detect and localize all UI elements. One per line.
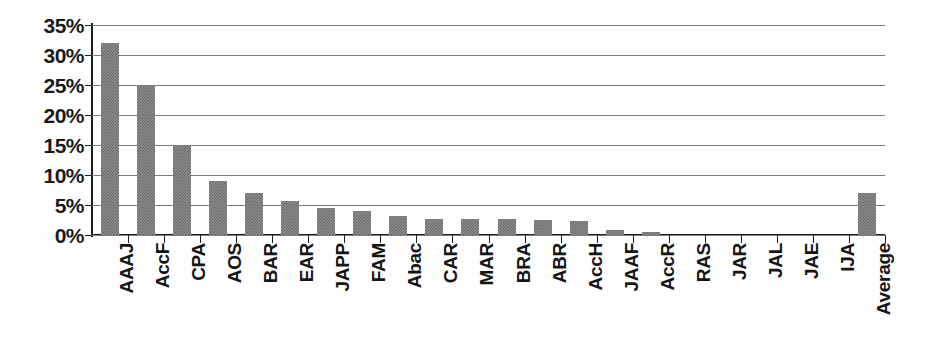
y-axis-tick-label: 10% [43,165,84,186]
x-axis-category-label: AccF [153,243,172,288]
bar [317,208,335,235]
x-axis-category-label: JAE [802,243,821,279]
x-axis-tick [885,235,886,243]
y-axis-tick [85,175,92,176]
x-axis-category-label: MAR [477,243,496,285]
bar [425,219,443,235]
bar [570,221,588,235]
bar-series [92,25,885,235]
x-axis-category-label: Abac [405,243,424,288]
bar [245,193,263,235]
bar [137,85,155,235]
x-axis-category-label: CPA [189,243,208,281]
x-axis-category-label: IJA [838,243,857,272]
x-axis-category-label: BRA [514,243,533,283]
y-axis-tick [85,205,92,206]
y-axis-tick [85,25,92,26]
x-axis-category-labels: AAAJAccFCPAAOSBAREARJAPPFAMAbacCARMARBRA… [92,237,885,345]
x-axis-category-label: BAR [261,243,280,283]
x-axis-category-label: AOS [225,243,244,283]
x-axis-category-label: CAR [441,243,460,283]
y-axis-tick [85,115,92,116]
y-axis-tick-label: 25% [43,75,84,96]
bar-chart: 0%5%10%15%20%25%30%35% AAAJAccFCPAAOSBAR… [0,0,926,345]
bar [498,219,516,235]
x-axis-category-label: Average [874,243,893,315]
y-axis-tick-label: 0% [55,225,84,246]
bar [389,216,407,235]
bar [606,230,624,235]
bar [173,145,191,235]
x-axis-category-label: FAM [369,243,388,282]
x-axis-category-label: JAL [766,243,785,278]
x-axis-category-label: RAS [694,243,713,282]
bar [281,201,299,235]
bar [209,181,227,235]
bar [353,211,371,235]
x-axis-category-label: JAR [730,243,749,280]
bar [858,193,876,235]
y-axis-tick-label: 35% [43,15,84,36]
x-axis-category-label: AccR [658,243,677,290]
y-axis-tick-label: 20% [43,105,84,126]
y-axis-tick [85,145,92,146]
bar [534,220,552,235]
bar [101,43,119,235]
x-axis-category-label: AccH [586,243,605,290]
y-axis-tick [85,235,92,236]
x-axis-category-label: AAAJ [117,243,136,294]
x-axis-category-label: EAR [297,243,316,282]
x-axis-category-label: ABR [550,243,569,283]
x-axis-category-label: JAPP [333,243,352,291]
bar [461,219,479,235]
y-axis-tick-label: 5% [55,195,84,216]
y-axis-tick-label: 15% [43,135,84,156]
bar [642,232,660,235]
y-axis-tick-label: 30% [43,45,84,66]
y-axis-tick [85,85,92,86]
y-axis-tick [85,55,92,56]
x-axis-category-label: JAAF [622,243,641,291]
plot-area [92,25,885,235]
y-axis-tick-labels: 0%5%10%15%20%25%30%35% [0,0,92,345]
